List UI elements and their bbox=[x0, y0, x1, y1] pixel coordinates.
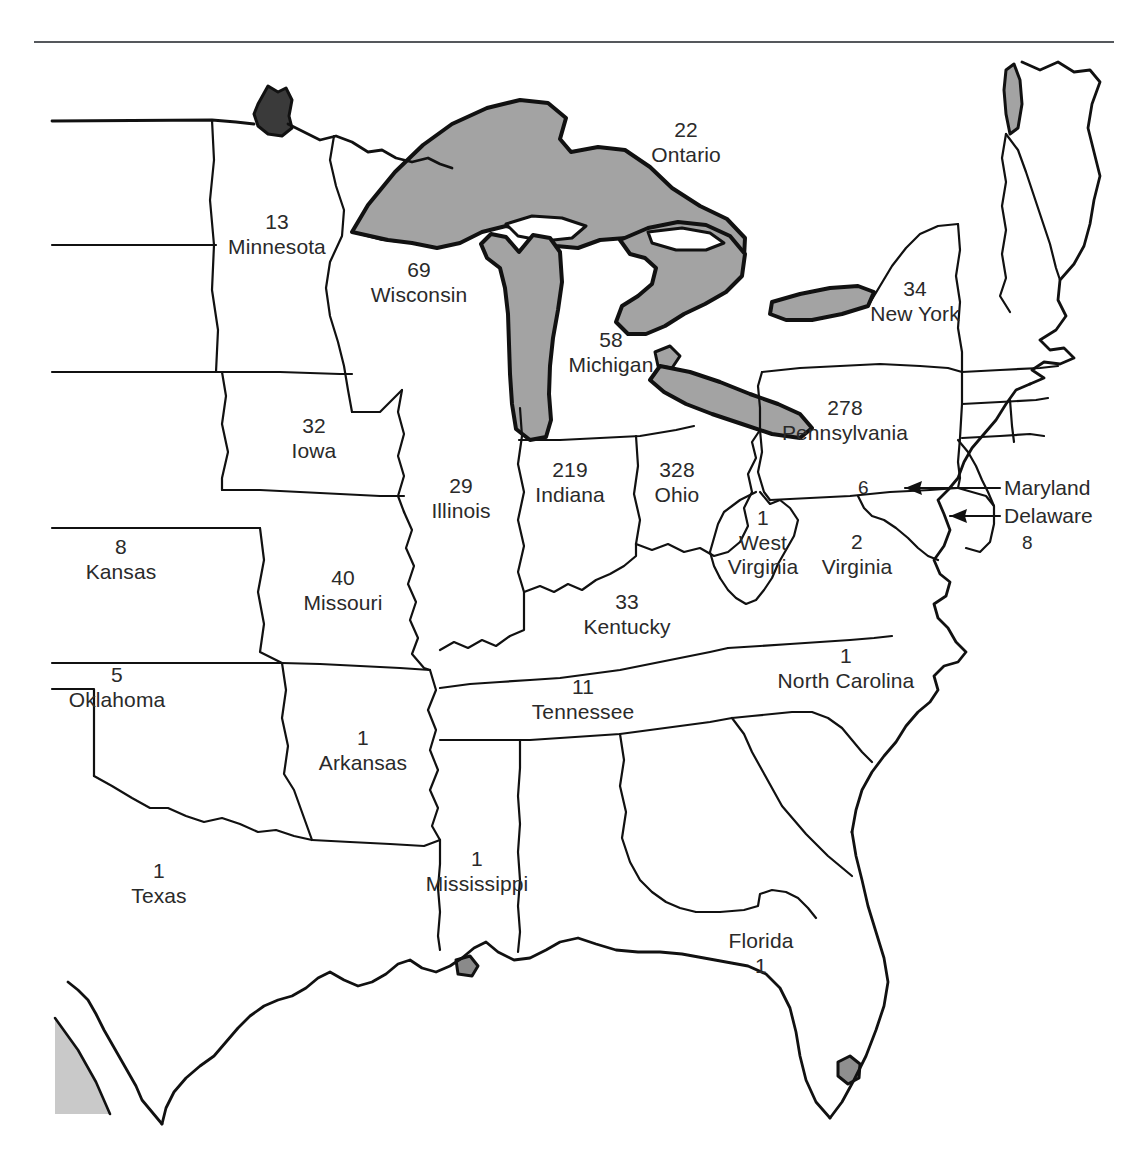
bnd-mo-il bbox=[404, 512, 430, 670]
region-label-oklahoma: 5 Oklahoma bbox=[69, 663, 166, 713]
lake-champlain bbox=[1004, 64, 1022, 134]
region-label-west-virginia: 1 West Virginia bbox=[728, 506, 798, 579]
region-label-ohio: 328 Ohio bbox=[655, 458, 700, 508]
region-value-texas: 1 bbox=[131, 859, 186, 884]
coast-northeast bbox=[1022, 62, 1100, 384]
delaware-arrowhead bbox=[950, 509, 967, 523]
bnd-sc-ga bbox=[732, 718, 852, 876]
region-value-new-york: 34 bbox=[870, 277, 960, 302]
callout-arrows bbox=[905, 481, 1000, 523]
region-value-ohio: 328 bbox=[655, 458, 700, 483]
bnd-ny-pa bbox=[762, 364, 962, 372]
lake-of-the-woods bbox=[254, 86, 292, 136]
region-value-mississippi: 1 bbox=[426, 847, 529, 872]
region-label-minnesota: 13 Minnesota bbox=[228, 210, 326, 260]
region-label-arkansas: 1 Arkansas bbox=[319, 726, 407, 776]
bnd-oh-pa bbox=[758, 430, 770, 500]
region-value-illinois: 29 bbox=[431, 474, 490, 499]
coast-midatlantic bbox=[852, 384, 1030, 832]
bnd-vt-nh bbox=[1000, 134, 1010, 312]
gulf-of-mexico-corner bbox=[55, 1018, 110, 1114]
bnd-ok-tx bbox=[94, 776, 312, 840]
bnd-ks-mo bbox=[258, 528, 282, 663]
lake-michigan bbox=[481, 234, 562, 440]
bnd-fl-north bbox=[696, 890, 816, 918]
region-value-florida: 1 bbox=[729, 954, 794, 979]
region-name-new-york: New York bbox=[870, 302, 960, 327]
region-name-west-virginia-line2: Virginia bbox=[728, 555, 798, 579]
region-name-west-virginia-line1: West bbox=[728, 531, 798, 555]
bnd-ct-south bbox=[962, 434, 1044, 438]
region-value-wisconsin: 69 bbox=[371, 258, 468, 283]
region-label-pennsylvania: 278 Pennsylvania bbox=[782, 396, 908, 446]
region-name-texas: Texas bbox=[131, 884, 186, 909]
region-name-ontario: Ontario bbox=[651, 143, 721, 168]
region-name-minnesota: Minnesota bbox=[228, 235, 326, 260]
bnd-wi-il bbox=[352, 390, 402, 412]
region-value-michigan: 58 bbox=[569, 328, 654, 353]
region-name-north-carolina: North Carolina bbox=[778, 669, 915, 694]
region-value-arkansas: 1 bbox=[319, 726, 407, 751]
bnd-in-oh bbox=[634, 436, 640, 544]
region-label-new-york: 34 New York bbox=[870, 277, 960, 327]
region-value-maryland: 6 bbox=[858, 477, 869, 499]
bnd-ar-la bbox=[312, 840, 440, 846]
region-name-wisconsin: Wisconsin bbox=[371, 283, 468, 308]
region-label-ontario: 22 Ontario bbox=[651, 118, 721, 168]
region-label-iowa: 32 Iowa bbox=[292, 414, 337, 464]
bnd-ar-ms bbox=[428, 670, 440, 840]
region-value-oklahoma: 5 bbox=[69, 663, 166, 688]
region-value-virginia: 2 bbox=[822, 530, 892, 555]
region-name-pennsylvania: Pennsylvania bbox=[782, 421, 908, 446]
region-value-kansas: 8 bbox=[86, 535, 157, 560]
region-value-west-virginia: 1 bbox=[728, 506, 798, 531]
region-name-missouri: Missouri bbox=[304, 591, 383, 616]
region-name-tennessee: Tennessee bbox=[532, 700, 634, 725]
region-value-kentucky: 33 bbox=[583, 590, 670, 615]
region-label-north-carolina: 1 North Carolina bbox=[778, 644, 915, 694]
region-label-kansas: 8 Kansas bbox=[86, 535, 157, 585]
bnd-ma-north bbox=[962, 366, 1058, 372]
bnd-al-ms bbox=[518, 740, 520, 952]
region-label-michigan: 58 Michigan bbox=[569, 328, 654, 378]
region-name-mississippi: Mississippi bbox=[426, 872, 529, 897]
region-label-florida: 1 Florida bbox=[729, 929, 794, 979]
region-name-maryland: Maryland bbox=[1004, 476, 1090, 500]
region-name-illinois: Illinois bbox=[431, 499, 490, 524]
map-figure: 22 Ontario 13 Minnesota 69 Wisconsin 58 … bbox=[0, 0, 1140, 1158]
region-label-tennessee: 11 Tennessee bbox=[532, 675, 634, 725]
region-label-missouri: 40 Missouri bbox=[304, 566, 383, 616]
bnd-ga-al bbox=[620, 734, 696, 912]
bnd-ne-ia bbox=[222, 372, 228, 490]
region-name-virginia: Virginia bbox=[822, 555, 892, 580]
region-name-michigan: Michigan bbox=[569, 353, 654, 378]
region-value-pennsylvania: 278 bbox=[782, 396, 908, 421]
region-name-oklahoma: Oklahoma bbox=[69, 688, 166, 713]
region-name-iowa: Iowa bbox=[292, 439, 337, 464]
region-name-indiana: Indiana bbox=[535, 483, 605, 508]
region-name-arkansas: Arkansas bbox=[319, 751, 407, 776]
map-graphic bbox=[0, 0, 1140, 1158]
region-name-florida: Florida bbox=[729, 929, 794, 954]
bnd-ia-mo bbox=[222, 490, 404, 496]
region-label-indiana: 219 Indiana bbox=[535, 458, 605, 508]
region-label-kentucky: 33 Kentucky bbox=[583, 590, 670, 640]
region-label-wisconsin: 69 Wisconsin bbox=[371, 258, 468, 308]
maryland-arrowhead bbox=[905, 481, 922, 495]
bnd-mn-wi bbox=[326, 136, 352, 412]
region-value-tennessee: 11 bbox=[532, 675, 634, 700]
bnd-ia-il bbox=[398, 390, 404, 512]
region-value-ontario: 22 bbox=[651, 118, 721, 143]
region-name-ohio: Ohio bbox=[655, 483, 700, 508]
bnd-mo-ar bbox=[282, 663, 430, 670]
border-canada-west bbox=[52, 120, 254, 124]
bnd-in-ky bbox=[524, 544, 636, 592]
bnd-mn-ia bbox=[216, 372, 352, 374]
lake-okeechobee bbox=[838, 1056, 860, 1084]
region-label-illinois: 29 Illinois bbox=[431, 474, 490, 524]
region-value-north-carolina: 1 bbox=[778, 644, 915, 669]
lake-ontario bbox=[770, 286, 874, 320]
water-bodies bbox=[55, 64, 1022, 1114]
bnd-ok-ar bbox=[282, 663, 312, 840]
bnd-nj-pa bbox=[958, 440, 994, 506]
